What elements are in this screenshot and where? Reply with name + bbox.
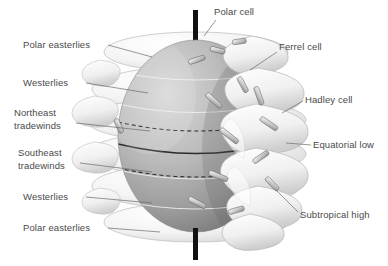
cell-lobe-left-north-mid — [72, 96, 118, 127]
label-southeast-tradewinds: Southeast tradewinds — [18, 147, 65, 172]
cell-lobe-left-south-high — [82, 188, 120, 214]
label-westerlies-south: Westerlies — [23, 191, 68, 204]
label-polar-easterlies-north: Polar easterlies — [23, 39, 90, 52]
label-polar-easterlies-south: Polar easterlies — [23, 222, 90, 235]
label-equatorial-low: Equatorial low — [313, 139, 374, 152]
label-subtropical-high: Subtropical high — [300, 209, 370, 222]
label-westerlies-north: Westerlies — [23, 77, 68, 90]
label-hadley-cell: Hadley cell — [305, 94, 353, 107]
figure-canvas: Polar easterlies Westerlies Northeast tr… — [0, 0, 388, 266]
cell-lobe-left-south-mid — [72, 142, 118, 173]
cell-lobe-left-north-high — [82, 60, 120, 86]
label-ferrel-cell: Ferrel cell — [279, 41, 322, 54]
label-northeast-tradewinds: Northeast tradewinds — [14, 107, 61, 132]
label-polar-cell: Polar cell — [214, 6, 254, 19]
rotation-axis-rod-south — [193, 228, 198, 260]
